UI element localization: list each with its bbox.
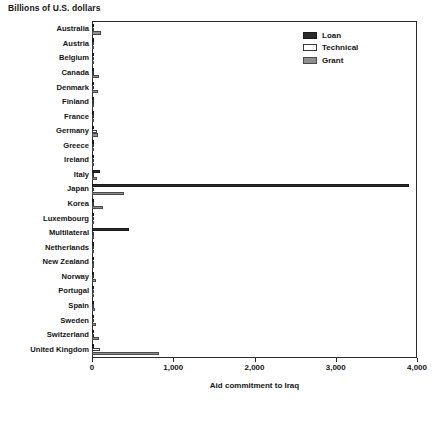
bar-technical xyxy=(92,334,94,337)
x-tick xyxy=(417,358,418,362)
bar-group: Belgium xyxy=(92,51,417,66)
bar-technical xyxy=(92,319,94,322)
bar-group: Italy xyxy=(92,168,417,183)
bar-grant xyxy=(92,308,95,311)
bar-grant xyxy=(92,163,94,166)
bar-technical xyxy=(92,115,94,118)
bar-grant xyxy=(92,75,99,78)
bar-grant xyxy=(92,192,124,195)
category-label-australia: Australia xyxy=(57,25,90,33)
bar-grant xyxy=(92,90,98,93)
bar-grant xyxy=(92,148,94,151)
category-label-austria: Austria xyxy=(63,40,89,48)
category-label-multilateral: Multilateral xyxy=(49,229,89,237)
legend-label: Technical xyxy=(322,43,358,52)
category-label-ireland: Ireland xyxy=(64,156,89,164)
category-label-spain: Spain xyxy=(68,302,89,310)
bar-grant xyxy=(92,264,94,267)
bar-group: Australia xyxy=(92,22,417,37)
bar-group: Germany xyxy=(92,124,417,139)
bar-grant xyxy=(92,337,99,340)
category-label-belgium: Belgium xyxy=(59,54,89,62)
bar-technical xyxy=(92,246,94,249)
bar-loan xyxy=(92,228,129,231)
category-label-united-kingdom: United Kingdom xyxy=(30,346,89,354)
x-tick-label: 0 xyxy=(90,363,94,372)
bar-group: Multilateral xyxy=(92,226,417,241)
bar-group: United Kingdom xyxy=(92,342,417,357)
bar-loan xyxy=(92,315,94,318)
bar-loan xyxy=(92,301,94,304)
x-tick-label: 3,000 xyxy=(326,363,346,372)
legend-item-loan[interactable]: Loan xyxy=(303,29,358,42)
category-label-italy: Italy xyxy=(74,171,89,179)
legend-label: Loan xyxy=(322,31,341,40)
bar-rows-container: AustraliaAustriaBelgiumCanadaDenmarkFinl… xyxy=(92,22,417,357)
x-tick xyxy=(173,358,174,362)
bar-technical xyxy=(92,71,94,74)
category-label-canada: Canada xyxy=(62,69,89,77)
bar-loan xyxy=(92,242,94,245)
x-tick xyxy=(92,358,93,362)
bar-group: Canada xyxy=(92,66,417,81)
bar-technical xyxy=(92,144,94,147)
bar-technical xyxy=(92,275,94,278)
bar-loan xyxy=(92,286,94,289)
bar-group: Sweden xyxy=(92,313,417,328)
bar-group: Norway xyxy=(92,270,417,285)
bar-grant xyxy=(92,104,94,107)
bar-technical xyxy=(92,232,94,235)
bar-grant xyxy=(92,352,159,355)
category-label-denmark: Denmark xyxy=(57,84,90,92)
bar-grant xyxy=(92,46,94,49)
bar-grant xyxy=(92,119,94,122)
bar-technical xyxy=(92,100,94,103)
bar-technical xyxy=(92,261,94,264)
bar-grant xyxy=(92,61,94,64)
category-label-france: France xyxy=(64,113,89,121)
bar-group: France xyxy=(92,109,417,124)
x-tick xyxy=(255,358,256,362)
bar-group: Korea xyxy=(92,197,417,212)
bar-loan xyxy=(92,330,94,333)
bar-grant xyxy=(92,279,96,282)
bar-grant xyxy=(92,294,94,297)
bar-loan xyxy=(92,38,94,41)
bar-technical xyxy=(92,188,94,191)
bar-grant xyxy=(92,177,97,180)
category-label-switzerland: Switzerland xyxy=(47,331,89,339)
bar-grant xyxy=(92,221,94,224)
category-label-luxembourg: Luxembourg xyxy=(43,215,89,223)
bar-loan xyxy=(92,272,94,275)
bar-grant xyxy=(92,31,101,34)
category-label-portugal: Portugal xyxy=(58,287,89,295)
bar-technical xyxy=(92,130,97,133)
bar-loan xyxy=(92,199,94,202)
legend-label: Grant xyxy=(322,56,343,65)
bar-chart-figure: Billions of U.S. dollars AustraliaAustri… xyxy=(0,0,434,435)
bar-loan xyxy=(92,68,94,71)
bar-technical xyxy=(92,304,94,307)
x-axis-tick-labels: 01,0002,0003,0004,000 xyxy=(92,363,417,377)
chart-legend: LoanTechnicalGrant xyxy=(303,29,358,67)
bar-grant xyxy=(92,206,103,209)
x-tick-label: 2,000 xyxy=(244,363,264,372)
bar-loan xyxy=(92,344,94,347)
category-label-norway: Norway xyxy=(62,273,89,281)
bar-technical xyxy=(92,348,100,351)
category-label-greece: Greece xyxy=(63,142,89,150)
bar-group: Austria xyxy=(92,37,417,52)
legend-item-grant[interactable]: Grant xyxy=(303,54,358,67)
x-tick xyxy=(336,358,337,362)
bar-group: Japan xyxy=(92,182,417,197)
bar-technical xyxy=(92,159,94,162)
chart-title: Billions of U.S. dollars xyxy=(8,3,101,13)
bar-group: Finland xyxy=(92,95,417,110)
bar-grant xyxy=(92,235,94,238)
bar-loan xyxy=(92,53,94,56)
bar-group: Greece xyxy=(92,139,417,154)
bar-technical xyxy=(92,57,94,60)
legend-item-technical[interactable]: Technical xyxy=(303,42,358,55)
bar-group: Spain xyxy=(92,299,417,314)
bar-technical xyxy=(92,173,94,176)
